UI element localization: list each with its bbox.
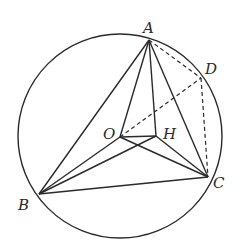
solid-segments [39, 40, 208, 194]
label-C: C [213, 174, 225, 192]
segment-AO [120, 40, 149, 137]
segment-BC [39, 177, 208, 194]
segment-AB [39, 40, 149, 194]
segment-OD [120, 78, 201, 137]
label-D: D [204, 60, 217, 78]
geometry-diagram: A D C B O H [0, 0, 241, 252]
segment-BO [39, 137, 120, 194]
label-H: H [162, 125, 177, 143]
segment-AC [149, 40, 208, 177]
label-B: B [17, 196, 29, 214]
segment-OH [120, 136, 156, 137]
label-O: O [103, 125, 115, 143]
label-A: A [141, 19, 154, 37]
